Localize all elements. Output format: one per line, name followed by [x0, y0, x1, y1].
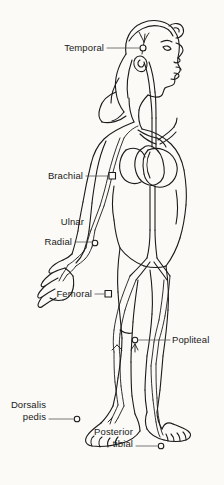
marker-posterior-tibial — [158, 443, 164, 449]
label-temporal-line-1: Temporal — [24, 42, 104, 54]
label-dorsalis-pedis: Dorsalis pedis — [0, 399, 46, 422]
label-radial-line-1: Radial — [12, 236, 72, 248]
label-brachial: Brachial — [13, 170, 83, 182]
label-temporal: Temporal — [24, 42, 104, 54]
label-femoral: Femoral — [22, 288, 92, 300]
heart-and-aorta — [130, 62, 177, 280]
label-posterior-tibial-line-1: Posterior — [80, 426, 133, 438]
pulse-point-markers — [74, 45, 164, 449]
marker-popliteal — [132, 337, 138, 343]
leg-arteries — [108, 276, 170, 437]
marker-brachial — [109, 173, 116, 180]
arm-arteries — [59, 126, 138, 281]
label-posterior-tibial-line-2: tibial — [80, 438, 133, 450]
label-radial: Radial — [12, 236, 72, 248]
label-popliteal: Popliteal — [172, 334, 224, 346]
label-dorsalis-pedis-line-2: pedis — [0, 411, 46, 423]
marker-radial — [92, 240, 98, 246]
label-brachial-line-1: Brachial — [13, 170, 83, 182]
label-femoral-line-1: Femoral — [22, 288, 92, 300]
marker-dorsalis-pedis — [74, 416, 80, 422]
marker-femoral — [105, 291, 112, 298]
label-ulnar-line-1: Ulnar — [24, 216, 84, 228]
anatomy-diagram: Temporal Brachial Ulnar Radial Femoral P… — [0, 0, 224, 485]
label-popliteal-line-1: Popliteal — [172, 334, 224, 346]
label-ulnar: Ulnar — [24, 216, 84, 228]
label-posterior-tibial: Posterior tibial — [80, 426, 133, 449]
label-dorsalis-pedis-line-1: Dorsalis — [0, 399, 46, 411]
marker-temporal — [140, 45, 146, 51]
